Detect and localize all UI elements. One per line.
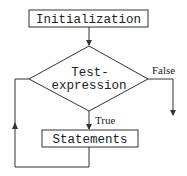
- test-node: Test- expression: [29, 46, 148, 111]
- init-node: Initialization: [29, 10, 148, 27]
- loop-arrow-icon: [12, 122, 18, 129]
- statements-label: Statements: [52, 133, 127, 147]
- true-label: True: [95, 114, 115, 126]
- false-label: False: [152, 64, 175, 76]
- flowchart: Initialization Test- expression False Tr…: [0, 0, 187, 176]
- test-label-line1: Test-: [71, 66, 109, 80]
- test-label-line2: expression: [51, 79, 126, 93]
- statements-node: Statements: [42, 130, 138, 147]
- arrow-false-exit: [148, 79, 173, 115]
- init-label: Initialization: [36, 13, 141, 27]
